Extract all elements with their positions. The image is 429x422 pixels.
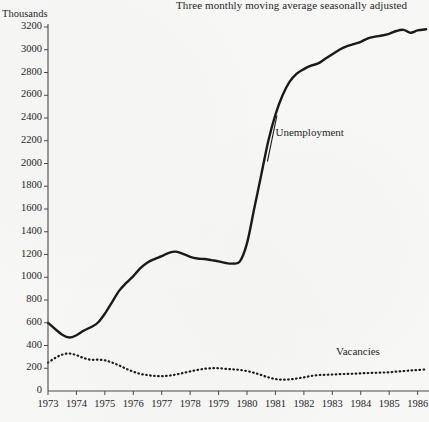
y-tick-label: 1400 [2, 225, 42, 236]
y-tick-label: 3000 [2, 43, 42, 54]
y-tick-label: 1800 [2, 179, 42, 190]
x-tick-label: 1986 [401, 398, 429, 409]
y-tick-label: 0 [2, 384, 42, 395]
y-tick-label: 1200 [2, 248, 42, 259]
y-tick-label: 3200 [2, 20, 42, 31]
vacancies-series-label: Vacancies [336, 345, 380, 357]
y-tick-label: 600 [2, 316, 42, 327]
y-tick-label: 800 [2, 293, 42, 304]
unemployment-series-line [48, 29, 426, 337]
unemployment-vacancies-chart: Three monthly moving average seasonally … [0, 0, 429, 422]
y-tick-label: 2000 [2, 157, 42, 168]
y-tick-label: 1600 [2, 202, 42, 213]
y-tick-label: 2600 [2, 88, 42, 99]
y-tick-label: 2400 [2, 111, 42, 122]
y-tick-label: 2800 [2, 66, 42, 77]
unemployment-series-label: Unemployment [275, 126, 343, 138]
axis-ticks [44, 27, 418, 395]
y-tick-label: 1000 [2, 270, 42, 281]
plot-area [0, 0, 429, 422]
y-tick-label: 200 [2, 361, 42, 372]
y-tick-label: 400 [2, 339, 42, 350]
y-tick-label: 2200 [2, 134, 42, 145]
